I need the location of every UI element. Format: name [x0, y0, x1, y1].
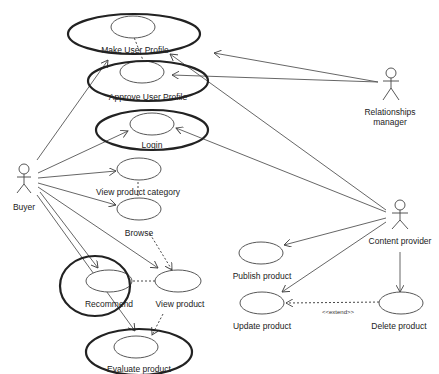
label-update-product: Update product	[233, 321, 292, 331]
label-view-product-category: View product category	[96, 187, 181, 197]
uc-delete-product[interactable]	[379, 292, 423, 314]
uc-view-product[interactable]	[155, 270, 201, 292]
assoc-rm-approve	[172, 75, 378, 82]
assoc-cp-update	[282, 222, 386, 292]
label-approve-user-profile: Approve User Profile	[109, 92, 188, 102]
actor-label-buyer: Buyer	[13, 202, 35, 212]
actor-content-provider[interactable]: Content provider	[369, 200, 432, 246]
actor-relationships-manager[interactable]: Relationships manager	[364, 68, 415, 127]
label-browse: Browse	[125, 228, 154, 238]
label-make-user-profile: Make User Profile	[101, 45, 169, 55]
uc-update-product[interactable]	[240, 292, 284, 314]
stick-figure-icon	[392, 200, 408, 229]
label-recommend: Recommend	[85, 299, 133, 309]
label-login: Login	[142, 140, 163, 150]
label-extend: <<extend>>	[322, 309, 355, 315]
stick-figure-icon	[383, 68, 399, 100]
label-evaluate-product: Evaluate product	[107, 364, 171, 374]
uc-make-user-profile[interactable]	[111, 16, 155, 38]
use-case-diagram: Make User Profile Approve User Profile L…	[0, 0, 439, 374]
uc-publish-product[interactable]	[239, 242, 283, 264]
actor-buyer[interactable]: Buyer	[13, 164, 35, 212]
dep-extend-delete-update	[286, 302, 383, 303]
assoc-buyer-view-category	[38, 171, 116, 178]
actor-label-relationships-manager-1: Relationships	[364, 107, 415, 117]
actor-label-relationships-manager-2: manager	[373, 117, 407, 127]
label-view-product: View product	[156, 299, 206, 309]
assoc-cp-login	[176, 128, 386, 212]
label-delete-product: Delete product	[371, 321, 427, 331]
stick-figure-icon	[17, 164, 31, 193]
uc-approve-user-profile[interactable]	[120, 61, 164, 83]
assoc-buyer-login	[38, 131, 128, 173]
actor-label-content-provider: Content provider	[369, 236, 432, 246]
uc-login[interactable]	[130, 113, 174, 135]
uc-browse[interactable]	[117, 198, 161, 220]
associations	[37, 53, 400, 331]
uc-evaluate-product[interactable]	[114, 336, 158, 358]
uc-recommend[interactable]	[86, 270, 132, 292]
uc-view-product-category[interactable]	[117, 158, 161, 180]
label-publish-product: Publish product	[233, 271, 292, 281]
